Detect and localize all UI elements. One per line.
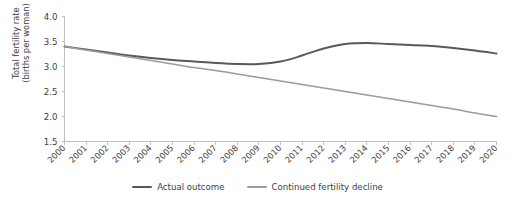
y-tick-label: 2.0 <box>44 112 58 122</box>
chart-legend: Actual outcome Continued fertility decli… <box>0 182 515 192</box>
x-tick-label: 2007 <box>196 143 218 165</box>
x-tick-label: 2013 <box>326 143 348 165</box>
x-tick-label: 2002 <box>88 143 110 165</box>
x-tick-label: 2006 <box>175 143 197 165</box>
legend-item-actual-outcome: Actual outcome <box>132 182 224 192</box>
y-axis-ticks: 4.03.53.02.52.01.5 <box>44 12 65 147</box>
x-tick-label: 2003 <box>110 143 132 165</box>
plot-area: 4.03.53.02.52.01.5 200020012002200320042… <box>0 0 515 204</box>
x-tick-label: 2015 <box>369 143 391 165</box>
y-tick-label: 3.0 <box>44 62 58 72</box>
series-line-actual-outcome <box>65 43 497 64</box>
x-tick-label: 2018 <box>434 143 456 165</box>
x-tick-label: 2017 <box>412 143 434 165</box>
legend-swatch-actual-outcome <box>132 186 152 188</box>
fertility-rate-line-chart: Total fertility rate (births per woman) … <box>0 0 515 204</box>
legend-swatch-continued-fertility-decline <box>247 186 267 188</box>
y-tick-label: 1.5 <box>44 137 58 147</box>
y-tick-label: 2.5 <box>44 87 58 97</box>
y-tick-label: 4.0 <box>44 12 58 22</box>
legend-label-continued-fertility-decline: Continued fertility decline <box>272 182 383 192</box>
x-tick-label: 2001 <box>67 143 89 165</box>
x-tick-label: 2014 <box>348 143 370 165</box>
x-tick-label: 2009 <box>240 143 262 165</box>
x-tick-label: 2010 <box>261 143 283 165</box>
series-lines <box>65 43 497 117</box>
x-tick-label: 2019 <box>456 143 478 165</box>
x-tick-label: 2016 <box>391 143 413 165</box>
y-tick-label: 3.5 <box>44 37 58 47</box>
x-tick-label: 2020 <box>477 143 499 165</box>
legend-item-continued-fertility-decline: Continued fertility decline <box>247 182 383 192</box>
x-tick-label: 2008 <box>218 143 240 165</box>
x-tick-label: 2012 <box>304 143 326 165</box>
x-tick-label: 2005 <box>153 143 175 165</box>
x-axis-ticks: 2000200120022003200420052006200720082009… <box>45 142 499 165</box>
x-tick-label: 2004 <box>132 143 154 165</box>
x-tick-label: 2011 <box>283 143 305 165</box>
series-line-continued-fertility-decline <box>65 47 497 117</box>
legend-label-actual-outcome: Actual outcome <box>157 182 224 192</box>
